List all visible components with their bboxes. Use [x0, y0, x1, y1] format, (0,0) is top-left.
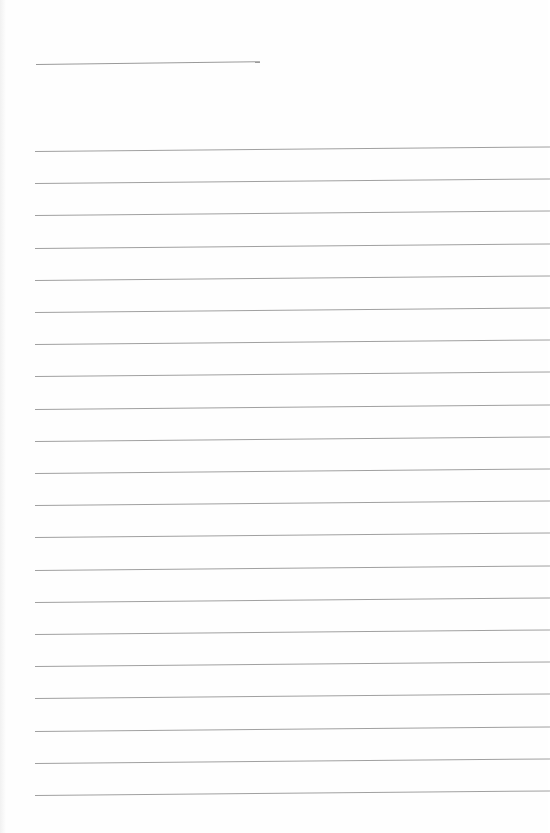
ruled-line — [35, 598, 550, 603]
ruled-line — [35, 727, 550, 732]
ruled-line — [35, 501, 550, 506]
ruled-line — [35, 211, 550, 216]
ruled-line — [35, 244, 550, 249]
ruled-line — [35, 372, 550, 377]
ruled-line — [35, 179, 550, 184]
page-edge-shadow — [0, 0, 6, 833]
ruled-line — [35, 340, 550, 345]
ruled-line — [35, 437, 550, 442]
ruled-line — [35, 791, 550, 796]
ruled-line — [35, 662, 550, 667]
ruled-line — [35, 469, 550, 474]
ruled-line — [35, 405, 550, 410]
ruled-line — [35, 759, 550, 764]
header-name-line — [36, 61, 260, 65]
ruled-line — [35, 566, 550, 571]
ruled-line — [35, 533, 550, 538]
ruled-line — [35, 630, 550, 635]
ruled-line — [35, 694, 550, 699]
ruled-line — [35, 147, 550, 152]
ruled-line — [35, 308, 550, 313]
ruled-line — [35, 276, 550, 281]
